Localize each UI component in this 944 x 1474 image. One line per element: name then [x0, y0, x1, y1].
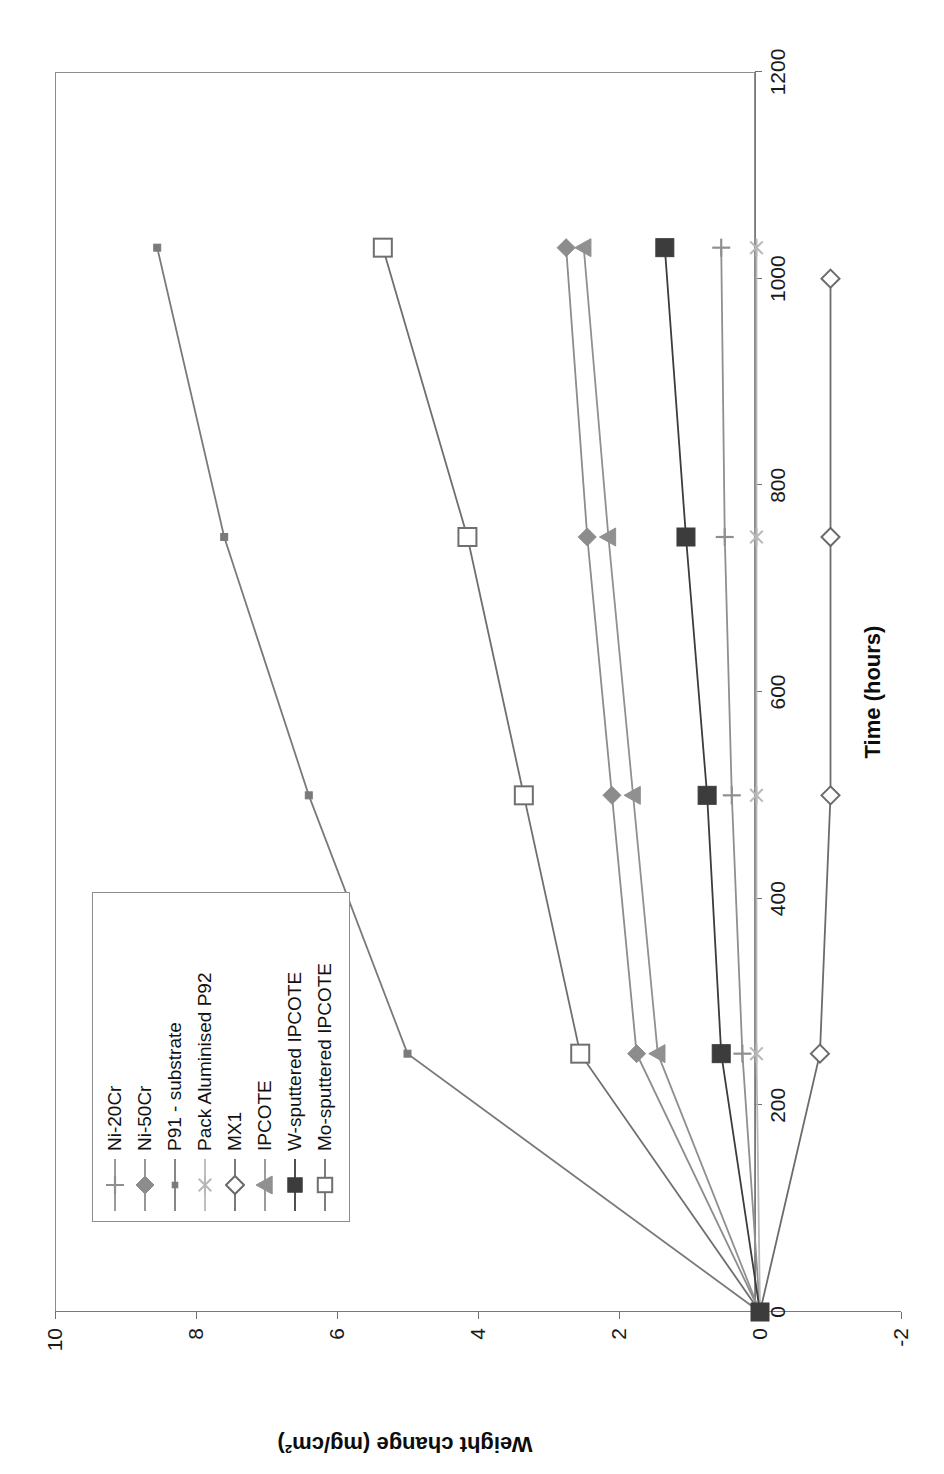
x-axis-title: Time (hours) — [860, 72, 886, 1312]
diamond-open-marker — [822, 270, 840, 288]
square-open-marker — [515, 786, 533, 804]
legend-item-label: Ni-20Cr — [104, 1086, 126, 1151]
asterisk-marker — [750, 786, 763, 804]
square-open-marker — [571, 1045, 589, 1063]
series-line — [665, 248, 760, 1312]
square-open-marker — [318, 1178, 332, 1192]
square-small-marker — [221, 534, 228, 541]
legend-item-ni-20cr[interactable]: Ni-20Cr — [100, 901, 130, 1213]
diamond-open-marker — [226, 1176, 244, 1194]
triangle-filled-marker — [575, 239, 591, 257]
plus-icon — [105, 1157, 125, 1213]
asterisk-marker — [750, 239, 763, 257]
series-line — [721, 248, 760, 1312]
diamond-open-marker — [822, 786, 840, 804]
legend-item-mx1[interactable]: MX1 — [220, 901, 250, 1213]
series-layer — [0, 0, 944, 1474]
plus-marker — [712, 239, 730, 257]
asterisk-marker — [750, 1045, 763, 1063]
square-open-icon — [315, 1157, 335, 1213]
rotated-chart-stage: 020040060080010001200 1086420-2 Ni-20CrN… — [0, 0, 944, 1474]
legend-item-label: W-sputtered IPCOTE — [284, 972, 306, 1151]
square-small-marker — [404, 1050, 411, 1057]
series-line — [756, 248, 760, 1312]
diamond-filled-marker — [557, 239, 575, 257]
asterisk-icon — [195, 1157, 215, 1213]
square-filled-marker — [656, 239, 674, 257]
asterisk-marker — [750, 528, 763, 546]
diamond-filled-marker — [136, 1176, 154, 1194]
legend-item-ni-50cr[interactable]: Ni-50Cr — [130, 901, 160, 1213]
legend-item-label: Mo-sputtered IPCOTE — [314, 963, 336, 1151]
series-ni-50cr — [557, 239, 760, 1312]
legend-item-mo-sputtered-ipcote[interactable]: Mo-sputtered IPCOTE — [310, 901, 340, 1213]
plus-marker — [106, 1176, 124, 1194]
square-open-marker — [374, 239, 392, 257]
diamond-open-icon — [225, 1157, 245, 1213]
series-w-sputtered-ipcote — [656, 239, 760, 1312]
chart-figure: 020040060080010001200 1086420-2 Ni-20CrN… — [0, 0, 944, 1474]
diamond-open-marker — [811, 1045, 829, 1063]
legend-item-w-sputtered-ipcote[interactable]: W-sputtered IPCOTE — [280, 901, 310, 1213]
series-ipcote — [575, 239, 760, 1312]
square-small-marker — [172, 1182, 178, 1188]
square-filled-icon — [285, 1157, 305, 1213]
square-filled-marker — [712, 1045, 730, 1063]
legend-item-label: MX1 — [224, 1112, 246, 1151]
series-line — [383, 248, 760, 1312]
series-mx1 — [760, 270, 840, 1312]
legend-item-p91-substrate[interactable]: P91 - substrate — [160, 901, 190, 1213]
square-filled-marker — [698, 786, 716, 804]
square-small-marker — [305, 792, 312, 799]
y-axis-title-text: Weight change (mg/cm²) — [277, 1431, 532, 1457]
legend-item-label: Pack Aluminised P92 — [194, 973, 216, 1152]
diamond-open-marker — [822, 528, 840, 546]
legend-item-ipcote[interactable]: IPCOTE — [250, 901, 280, 1213]
diamond-filled-marker — [603, 786, 621, 804]
asterisk-marker — [199, 1176, 212, 1194]
diamond-filled-icon — [135, 1157, 155, 1213]
legend-item-label: P91 - substrate — [164, 1022, 186, 1151]
legend: Ni-20CrNi-50CrP91 - substratePack Alumin… — [92, 892, 350, 1222]
diamond-filled-marker — [628, 1045, 646, 1063]
series-pack-aluminised-p92 — [750, 239, 763, 1312]
diamond-filled-marker — [578, 528, 596, 546]
square-filled-marker — [677, 528, 695, 546]
square-filled-marker — [288, 1178, 302, 1192]
legend-item-label: Ni-50Cr — [134, 1086, 156, 1151]
square-filled-marker — [751, 1303, 769, 1321]
plus-marker — [716, 528, 734, 546]
plus-marker — [733, 1045, 751, 1063]
y-axis-title: Weight change (mg/cm²) — [55, 1414, 755, 1474]
legend-item-label: IPCOTE — [254, 1080, 276, 1151]
series-mo-sputtered-ipcote — [374, 239, 760, 1312]
square-small-marker — [154, 244, 161, 251]
triangle-filled-icon — [255, 1157, 275, 1213]
series-line — [760, 279, 831, 1312]
legend-item-pack-aluminised-p92[interactable]: Pack Aluminised P92 — [190, 901, 220, 1213]
square-open-marker — [458, 528, 476, 546]
plus-marker — [723, 786, 741, 804]
square-small-icon — [165, 1157, 185, 1213]
